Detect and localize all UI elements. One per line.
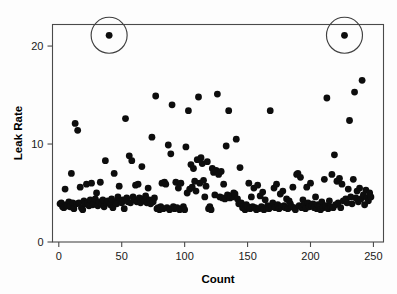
y-axis-ticks: 01020 — [31, 40, 52, 248]
data-point — [273, 181, 280, 188]
x-tick-label: 150 — [238, 250, 256, 262]
data-point — [88, 180, 95, 187]
data-point — [350, 176, 357, 183]
data-point — [218, 168, 225, 175]
data-point — [198, 154, 205, 161]
data-point — [169, 101, 176, 108]
data-point — [208, 206, 215, 213]
data-point — [279, 188, 286, 195]
data-point — [331, 151, 338, 158]
data-point — [116, 183, 123, 190]
data-point — [162, 181, 169, 188]
x-tick-label: 50 — [116, 250, 128, 262]
data-point — [312, 194, 319, 201]
data-point — [68, 170, 75, 177]
data-point — [152, 93, 159, 100]
y-tick-label: 10 — [31, 138, 43, 150]
y-tick-label: 20 — [31, 40, 43, 52]
data-point — [326, 197, 333, 204]
data-point — [165, 142, 172, 149]
data-point — [79, 206, 86, 213]
data-point — [248, 194, 255, 201]
data-point — [72, 120, 79, 127]
data-point — [245, 180, 252, 187]
x-tick-label: 250 — [364, 250, 382, 262]
data-point — [102, 157, 109, 164]
data-point — [177, 180, 184, 187]
data-point — [368, 194, 375, 201]
data-point — [190, 165, 197, 172]
data-point — [267, 107, 274, 114]
data-point — [62, 186, 69, 193]
data-point — [351, 89, 358, 96]
data-point — [201, 194, 208, 201]
data-point — [122, 115, 129, 122]
data-point — [225, 107, 232, 114]
scatter-plot-figure: 01020 050100150200250 Count Leak Rate — [0, 0, 397, 294]
data-point — [329, 171, 336, 178]
data-point — [181, 206, 188, 213]
x-axis-ticks: 050100150200250 — [56, 242, 383, 262]
data-point — [237, 164, 244, 171]
data-point — [323, 95, 330, 102]
data-point — [149, 134, 156, 141]
data-point — [341, 32, 348, 39]
data-point — [185, 107, 192, 114]
data-point — [259, 189, 266, 196]
data-point — [337, 204, 344, 211]
data-point — [204, 158, 211, 165]
data-point — [77, 184, 84, 191]
data-point — [183, 144, 190, 151]
data-point — [135, 181, 142, 188]
x-tick-label: 0 — [56, 250, 62, 262]
data-point — [336, 175, 343, 182]
data-point — [74, 127, 81, 134]
data-point — [307, 180, 314, 187]
data-point — [214, 91, 221, 98]
x-tick-label: 200 — [301, 250, 319, 262]
data-point — [359, 77, 366, 84]
data-point — [203, 183, 210, 190]
data-point — [151, 195, 158, 202]
data-points-layer — [57, 32, 375, 213]
data-point — [297, 174, 304, 181]
plot-canvas: 01020 050100150200250 Count Leak Rate — [0, 0, 397, 294]
data-point — [195, 94, 202, 101]
data-point — [346, 117, 353, 124]
data-point — [145, 185, 152, 192]
y-tick-label: 0 — [37, 236, 43, 248]
data-point — [356, 185, 363, 192]
data-point — [349, 200, 356, 207]
data-point — [289, 184, 296, 191]
data-point — [121, 205, 128, 212]
data-point — [193, 188, 200, 195]
y-axis-title: Leak Rate — [12, 106, 24, 160]
x-axis-title: Count — [201, 273, 234, 285]
data-point — [93, 190, 100, 197]
data-point — [321, 176, 328, 183]
data-point — [254, 182, 261, 189]
data-point — [200, 177, 207, 184]
x-tick-label: 100 — [175, 250, 193, 262]
data-point — [128, 157, 135, 164]
data-point — [345, 186, 352, 193]
data-point — [167, 150, 174, 157]
data-point — [138, 163, 145, 170]
data-point — [223, 143, 230, 150]
data-point — [106, 32, 113, 39]
annotation-circles-layer — [91, 17, 362, 53]
data-point — [339, 181, 346, 188]
data-point — [233, 136, 240, 143]
data-point — [262, 196, 269, 203]
data-point — [111, 170, 118, 177]
data-point — [220, 181, 227, 188]
data-point — [97, 179, 104, 186]
